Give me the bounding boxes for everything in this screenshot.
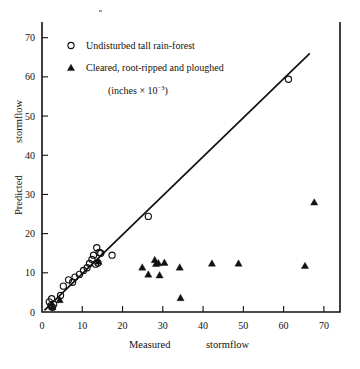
- y-tick-label-20: 20: [25, 228, 35, 239]
- series-undisturbed-points: [46, 76, 291, 310]
- data-point: [109, 252, 115, 258]
- data-point: [139, 264, 146, 270]
- legend: Undisturbed tall rain-forest Cleared, ro…: [67, 40, 223, 73]
- x-tick-label-0: 0: [40, 320, 45, 331]
- series-cleared-points: [49, 199, 318, 310]
- x-tick-label-10: 10: [77, 320, 87, 331]
- x-tick-label-40: 40: [198, 320, 208, 331]
- y-axis-title: Predicted stormflow: [13, 99, 24, 215]
- scan-artifact-speck: [99, 10, 102, 12]
- data-point: [301, 262, 308, 268]
- units-exponent: −3: [158, 84, 165, 91]
- units-note-close: ): [164, 85, 167, 97]
- y-tick-label-40: 40: [25, 150, 35, 161]
- y-axis-tick-labels: 010203040506070: [25, 32, 35, 317]
- legend-label-cleared: Cleared, root-ripped and ploughed: [86, 62, 224, 73]
- x-axis-ticks: [82, 306, 324, 312]
- y-tick-label-0: 0: [30, 307, 35, 318]
- y-axis-title-part2: stormflow: [13, 99, 24, 143]
- x-tick-label-30: 30: [158, 320, 168, 331]
- x-tick-label-50: 50: [238, 320, 248, 331]
- regression-line: [44, 53, 309, 310]
- x-axis-tick-labels: 010203040506070: [40, 320, 329, 331]
- data-point: [311, 199, 318, 205]
- data-point: [145, 271, 152, 277]
- y-tick-label-70: 70: [25, 32, 35, 43]
- y-axis-ticks: [42, 38, 48, 273]
- units-annotation: (inches × 10−3): [108, 84, 168, 97]
- units-note-text: (inches × 10: [108, 85, 158, 97]
- figure-container: 010203040506070 010203040506070 Undistur…: [0, 0, 360, 369]
- y-tick-label-60: 60: [25, 71, 35, 82]
- legend-marker-filled-triangle: [67, 64, 74, 70]
- data-point: [235, 260, 242, 266]
- x-axis-title-part1: Measured: [129, 339, 171, 350]
- svg-text:(inches × 10−3): (inches × 10−3): [108, 84, 168, 97]
- x-tick-label-70: 70: [319, 320, 329, 331]
- y-tick-label-10: 10: [25, 267, 35, 278]
- x-axis-title-part2: stormflow: [206, 339, 250, 350]
- data-point: [161, 259, 168, 265]
- data-point: [145, 213, 151, 219]
- data-point: [285, 76, 291, 82]
- y-tick-label-30: 30: [25, 189, 35, 200]
- scatter-plot: 010203040506070 010203040506070 Undistur…: [0, 0, 360, 369]
- y-axis-title-part1: Predicted: [13, 175, 24, 215]
- data-point: [208, 260, 215, 266]
- x-axis-title: Measured stormflow: [129, 339, 250, 350]
- x-tick-label-20: 20: [118, 320, 128, 331]
- legend-marker-open-circle: [68, 42, 74, 48]
- y-tick-label-50: 50: [25, 111, 35, 122]
- x-tick-label-60: 60: [279, 320, 289, 331]
- data-point: [176, 264, 183, 270]
- data-point: [60, 283, 66, 289]
- legend-label-undisturbed: Undisturbed tall rain-forest: [86, 40, 195, 51]
- data-point: [156, 272, 163, 278]
- data-point: [177, 294, 184, 300]
